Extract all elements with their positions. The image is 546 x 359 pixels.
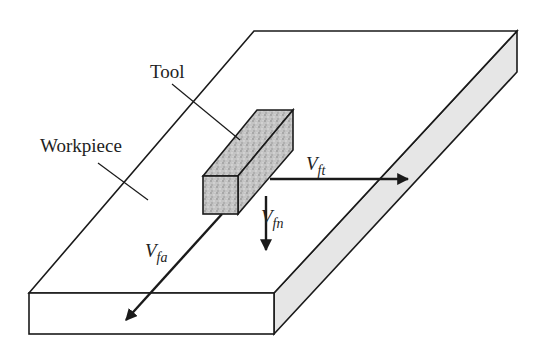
workpiece-front-face	[29, 293, 274, 334]
workpiece	[29, 31, 517, 334]
vfn-sub: fn	[273, 216, 284, 231]
vft-sub: ft	[318, 163, 327, 178]
tool-front-face	[203, 176, 238, 214]
tool-label: Tool	[150, 61, 185, 82]
vfa-sub: fa	[157, 250, 168, 265]
feed-velocity-diagram: Tool Workpiece Vft Vfn Vfa	[0, 0, 546, 359]
workpiece-label: Workpiece	[40, 135, 122, 156]
